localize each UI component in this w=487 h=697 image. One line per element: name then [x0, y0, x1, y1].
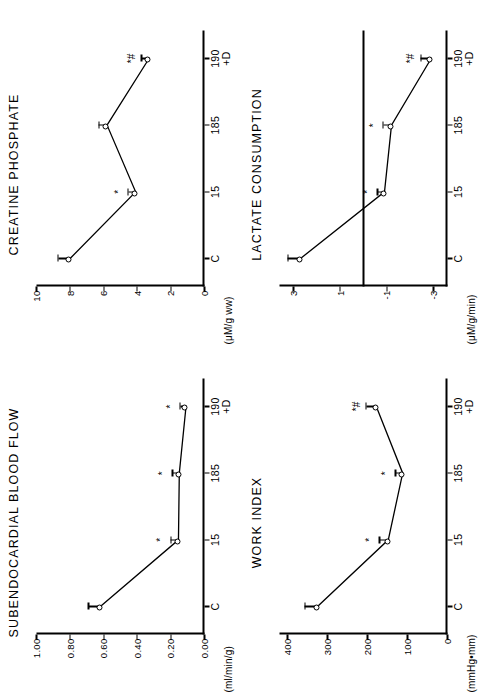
panel-title: SUBENDOCARDIAL BLOOD FLOW	[6, 348, 20, 696]
y-axis-tick-label: 0.60	[98, 638, 108, 658]
x-axis-tick-label: 15	[452, 533, 463, 545]
y-axis-title: (ml/min/g)	[222, 646, 233, 692]
data-point-marker[interactable]	[387, 123, 393, 129]
significance-marker: *	[368, 123, 378, 127]
plot-area: 0100200300400C15185190+D(mmHg•mm)***#	[279, 378, 447, 634]
significance-marker: *	[113, 189, 123, 193]
x-axis-tick-label: 190+D	[209, 397, 230, 416]
y-axis-tick-label: 0.20	[166, 638, 176, 658]
y-axis-tick-label: 1	[335, 290, 345, 296]
significance-marker: *	[364, 537, 374, 541]
y-axis-tick-label: 6	[98, 290, 108, 296]
error-bar-cap	[365, 403, 366, 410]
error-bar-cap	[420, 55, 421, 62]
y-axis-tick-label: 300	[322, 638, 332, 655]
x-axis-tick-label: 190+D	[452, 397, 473, 416]
error-bar-cap	[304, 603, 305, 610]
y-axis-tick-label: 4	[132, 290, 142, 296]
x-axis-tick-label: C	[452, 254, 463, 262]
error-bar-cap	[378, 536, 379, 543]
y-axis-tick-label: 200	[362, 638, 372, 655]
panel-lactate-consumption: LACTATE CONSUMPTION -3-113C15185190+D(μM…	[243, 0, 486, 348]
panel-title: LACTATE CONSUMPTION	[249, 0, 263, 348]
x-axis-tick-label: 15	[209, 185, 220, 197]
data-point-marker[interactable]	[131, 190, 137, 196]
y-axis-tick-label: 10	[31, 290, 41, 301]
error-bar-cap	[179, 403, 180, 410]
x-axis-tick-label: 185	[209, 115, 220, 134]
y-axis-tick-label: 0.80	[65, 638, 75, 658]
significance-marker: *#	[126, 53, 136, 62]
data-point-marker[interactable]	[372, 404, 378, 410]
y-axis-tick-label: 8	[65, 290, 75, 296]
error-bar-cap	[87, 603, 88, 610]
x-axis-tick-label: 185	[452, 463, 463, 482]
error-bar-cap	[394, 469, 395, 476]
figure-root: CREATINE PHOSPHATE 0246810C15185190+D(μM…	[0, 0, 487, 697]
error-bar-cap	[287, 255, 288, 262]
y-axis-tick-label: -1	[382, 290, 392, 299]
panel-title: CREATINE PHOSPHATE	[6, 0, 20, 348]
y-axis-tick-label: 0.00	[199, 638, 209, 658]
data-point-marker[interactable]	[174, 538, 180, 544]
significance-marker: *	[155, 537, 165, 541]
x-axis-tick-label: 15	[209, 533, 220, 545]
y-axis-title: (μM/g/min)	[465, 294, 476, 344]
error-bar-cap	[382, 121, 383, 128]
error-bar-cap	[171, 469, 172, 476]
data-point-marker[interactable]	[296, 256, 302, 262]
data-series-line	[36, 378, 204, 634]
data-series-line	[279, 378, 447, 634]
significance-marker: *	[380, 471, 390, 475]
data-point-marker[interactable]	[144, 56, 150, 62]
significance-marker: *	[362, 189, 372, 193]
y-axis-title: (μM/g ww)	[222, 296, 233, 344]
data-point-marker[interactable]	[65, 256, 71, 262]
data-point-marker[interactable]	[380, 190, 386, 196]
error-bar-cap	[140, 55, 141, 62]
y-axis-tick-label: 0	[199, 290, 209, 296]
x-axis-tick-label: 185	[209, 463, 220, 482]
data-point-marker[interactable]	[398, 471, 404, 477]
panel-work-index: WORK INDEX 0100200300400C15185190+D(mmHg…	[243, 348, 486, 696]
y-axis-tick-label: 2	[166, 290, 176, 296]
y-axis-tick-label: -3	[428, 290, 438, 299]
panel-title: WORK INDEX	[249, 348, 263, 696]
plot-area: 0.000.200.400.600.801.00C15185190+D(ml/m…	[36, 378, 204, 634]
error-bar-cap	[376, 188, 377, 195]
data-point-marker[interactable]	[175, 471, 181, 477]
significance-marker: *	[165, 404, 175, 408]
error-bar-cap	[127, 188, 128, 195]
data-point-marker[interactable]	[181, 404, 187, 410]
error-bar-cap	[170, 536, 171, 543]
data-point-marker[interactable]	[384, 538, 390, 544]
y-axis-tick-label: 100	[402, 638, 412, 655]
x-axis-tick-label: 15	[452, 185, 463, 197]
significance-marker: *#	[351, 401, 361, 410]
plot-area: -3-113C15185190+D(μM/g/min)***#	[279, 30, 447, 286]
y-axis-tick-label: 3	[288, 290, 298, 296]
data-point-marker[interactable]	[313, 604, 319, 610]
data-point-marker[interactable]	[102, 123, 108, 129]
data-point-marker[interactable]	[426, 56, 432, 62]
x-axis-tick-label: C	[452, 602, 463, 610]
y-axis-tick-label: 0.40	[132, 638, 142, 658]
x-axis-tick-label: 190+D	[209, 49, 230, 68]
y-axis-tick-label: 400	[282, 638, 292, 655]
panel-subendocardial-blood-flow: SUBENDOCARDIAL BLOOD FLOW 0.000.200.400.…	[0, 348, 243, 696]
data-series-line	[279, 30, 447, 286]
significance-marker: *	[157, 471, 167, 475]
data-series-line	[36, 30, 204, 286]
plot-area: 0246810C15185190+D(μM/g ww)**#	[36, 30, 204, 286]
x-axis-tick-label: 190+D	[452, 49, 473, 68]
error-bar-cap	[57, 255, 58, 262]
data-point-marker[interactable]	[96, 604, 102, 610]
y-axis-title: (mmHg•mm)	[465, 634, 476, 692]
error-bar-cap	[98, 121, 99, 128]
panel-creatine-phosphate: CREATINE PHOSPHATE 0246810C15185190+D(μM…	[0, 0, 243, 348]
y-axis-tick-label: 1.00	[31, 638, 41, 658]
x-axis-tick-label: C	[209, 254, 220, 262]
x-axis-tick-label: C	[209, 602, 220, 610]
x-axis-tick-label: 185	[452, 115, 463, 134]
y-axis-tick-label: 0	[442, 638, 452, 644]
